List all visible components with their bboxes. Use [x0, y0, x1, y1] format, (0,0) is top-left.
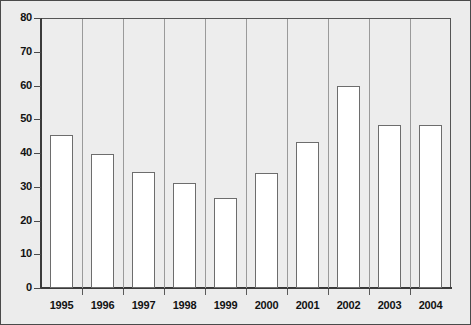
bar-2002: [337, 86, 360, 288]
y-tick-0: [34, 288, 41, 289]
y-tick-70: [34, 52, 41, 53]
x-tick-label-1995: 1995: [41, 299, 82, 311]
category-separator: [205, 19, 206, 288]
category-separator: [287, 19, 288, 288]
y-tick-label-30: 30: [1, 180, 32, 192]
category-separator: [328, 19, 329, 288]
x-tick-2003: [410, 289, 411, 295]
y-tick-label-60: 60: [1, 79, 32, 91]
bar-1998: [173, 183, 196, 288]
y-tick-label-10: 10: [1, 247, 32, 259]
y-tick-label-70: 70: [1, 45, 32, 57]
x-tick-1995: [82, 289, 83, 295]
x-tick-label-1998: 1998: [164, 299, 205, 311]
x-tick-label-2004: 2004: [410, 299, 451, 311]
x-tick-2000: [287, 289, 288, 295]
category-separator: [369, 19, 370, 288]
x-tick-2001: [328, 289, 329, 295]
x-tick-1997: [164, 289, 165, 295]
category-separator: [164, 19, 165, 288]
bar-2000: [255, 173, 278, 288]
bar-1999: [214, 198, 237, 288]
x-tick-label-1997: 1997: [123, 299, 164, 311]
x-tick-label-1999: 1999: [205, 299, 246, 311]
x-tick-label-2000: 2000: [246, 299, 287, 311]
y-tick-label-80: 80: [1, 11, 32, 23]
bar-1997: [132, 172, 155, 288]
x-tick-label-2003: 2003: [369, 299, 410, 311]
category-separator: [410, 19, 411, 288]
y-tick-20: [34, 221, 41, 222]
x-tick-1996: [123, 289, 124, 295]
y-tick-30: [34, 187, 41, 188]
category-separator: [82, 19, 83, 288]
x-tick-label-2002: 2002: [328, 299, 369, 311]
x-tick-1998: [205, 289, 206, 295]
y-tick-60: [34, 86, 41, 87]
y-tick-label-40: 40: [1, 146, 32, 158]
y-tick-80: [34, 18, 41, 19]
category-separator: [123, 19, 124, 288]
y-tick-label-50: 50: [1, 112, 32, 124]
bar-2004: [419, 125, 442, 288]
category-separator: [246, 19, 247, 288]
y-tick-10: [34, 254, 41, 255]
y-tick-40: [34, 153, 41, 154]
y-tick-label-0: 0: [1, 281, 32, 293]
chart-figure: 01020304050607080 1995199619971998199920…: [0, 0, 471, 325]
x-tick-1999: [246, 289, 247, 295]
x-tick-label-2001: 2001: [287, 299, 328, 311]
y-tick-label-20: 20: [1, 214, 32, 226]
x-tick-2002: [369, 289, 370, 295]
bar-1995: [50, 135, 73, 288]
y-tick-50: [34, 119, 41, 120]
bar-2003: [378, 125, 401, 288]
x-tick-label-1996: 1996: [82, 299, 123, 311]
bar-2001: [296, 142, 319, 288]
bar-1996: [91, 154, 114, 288]
